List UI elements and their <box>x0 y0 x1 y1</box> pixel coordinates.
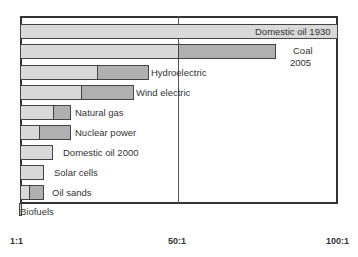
label-coal-year: 2005 <box>290 57 311 68</box>
label-solar-cells: Solar cells <box>54 167 98 178</box>
label-biofuels: Biofuels <box>20 206 54 217</box>
label-domestic-oil-2000: Domestic oil 2000 <box>63 147 139 158</box>
bar-domestic-oil-2000 <box>20 145 53 160</box>
bar-coal-2005 <box>20 44 276 59</box>
bar-nuclear-power <box>20 125 71 140</box>
label-coal: Coal <box>293 45 313 56</box>
tick-50-1: 50:1 <box>168 236 186 246</box>
bar-solar-cells <box>20 165 44 180</box>
label-wind-electric: Wind electric <box>136 87 190 98</box>
bar-natural-gas <box>20 105 71 120</box>
bar-hydroelectric <box>20 65 149 80</box>
bar-oil-sands <box>20 185 44 200</box>
label-domestic-oil-1930: Domestic oil 1930 <box>255 26 331 37</box>
label-hydroelectric: Hydroelectric <box>151 67 206 78</box>
label-nuclear-power: Nuclear power <box>75 127 136 138</box>
tick-1-1: 1:1 <box>10 236 23 246</box>
tick-100-1: 100:1 <box>326 236 349 246</box>
label-oil-sands: Oil sands <box>52 187 92 198</box>
label-natural-gas: Natural gas <box>75 107 124 118</box>
bar-wind-electric <box>20 85 134 100</box>
